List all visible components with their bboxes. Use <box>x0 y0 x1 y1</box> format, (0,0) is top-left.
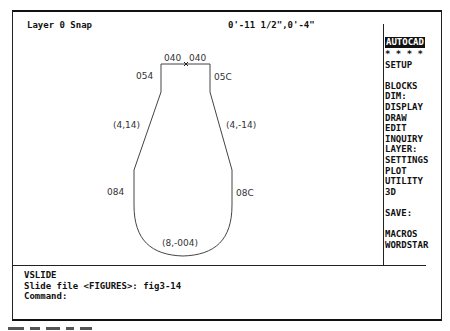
label-left-slope: (4,14) <box>113 120 140 130</box>
command-area[interactable]: VSLIDE Slide file <FIGURES>: fig3-14 Com… <box>24 270 181 302</box>
menu-item-plot[interactable]: PLOT <box>385 166 441 177</box>
menu-item-wordstar[interactable]: WORDSTAR <box>385 240 441 251</box>
menu-item-layer[interactable]: LAYER: <box>385 144 441 155</box>
command-history-line: VSLIDE <box>24 270 181 281</box>
command-history-line: Slide file <FIGURES>: fig3-14 <box>24 281 181 292</box>
label-top-right: 040 <box>189 53 206 63</box>
shape-outline <box>134 64 232 256</box>
label-upper-left-side: 054 <box>136 71 153 81</box>
menu-item-draw[interactable]: DRAW <box>385 113 441 124</box>
label-top-left: 040 <box>164 53 181 63</box>
menu-spacer <box>385 70 441 81</box>
menu-item-display[interactable]: DISPLAY <box>385 102 441 113</box>
menu-item-settings[interactable]: SETTINGS <box>385 155 441 166</box>
label-lower-right-side: 08C <box>236 188 254 198</box>
menu-item-utility[interactable]: UTILITY <box>385 176 441 187</box>
menu-item-inquiry[interactable]: INQUIRY <box>385 134 441 145</box>
label-right-slope: (4,-14) <box>226 120 256 130</box>
figure-caption-cropped <box>8 324 158 331</box>
menu-spacer <box>385 219 441 230</box>
command-prompt[interactable]: Command: <box>24 291 181 302</box>
menu-item-edit[interactable]: EDIT <box>385 123 441 134</box>
label-bottom-arc: (8,-004) <box>162 238 198 248</box>
menu-item-autocad[interactable]: AUTOCAD <box>385 37 425 48</box>
menu-item-setup[interactable]: SETUP <box>385 60 441 71</box>
menu-item-dim[interactable]: DIM: <box>385 91 441 102</box>
screen-menu-separator <box>383 24 384 265</box>
label-upper-right-side: 05C <box>214 72 232 82</box>
screen-menu: AUTOCAD * * * * SETUP BLOCKS DIM: DISPLA… <box>385 30 441 250</box>
menu-item-save[interactable]: SAVE: <box>385 208 441 219</box>
menu-spacer <box>385 197 441 208</box>
label-lower-left-side: 084 <box>107 187 124 197</box>
menu-item-stars[interactable]: * * * * <box>385 49 441 60</box>
menu-item-blocks[interactable]: BLOCKS <box>385 81 441 92</box>
command-area-divider <box>13 265 426 266</box>
menu-item-macros[interactable]: MACROS <box>385 229 441 240</box>
menu-item-3d[interactable]: 3D <box>385 187 441 198</box>
